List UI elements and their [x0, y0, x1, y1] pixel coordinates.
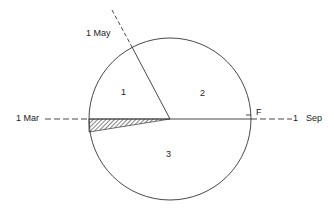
mar-label: 1 Mar [16, 114, 39, 123]
region-1-label: 1 [121, 88, 126, 97]
may-dashed-line [112, 10, 132, 47]
region-2-label: 2 [200, 89, 205, 98]
hatched-wedge [89, 119, 170, 132]
diagram-canvas [0, 0, 334, 217]
f-label: F [256, 108, 262, 117]
sep-one-label: 1 [293, 114, 298, 123]
region-3-label: 3 [166, 150, 171, 159]
may-label: 1 May [86, 29, 111, 38]
may-solid-line [132, 47, 170, 119]
sep-label: Sep [306, 114, 322, 123]
